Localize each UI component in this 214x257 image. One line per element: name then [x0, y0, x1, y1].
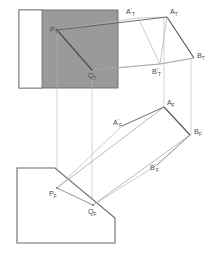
front-view-group [17, 107, 190, 243]
top-view-group [19, 10, 194, 88]
vertex-Q-front [92, 204, 94, 206]
front-view-edge-Aprime-P [57, 126, 122, 188]
front-view-edge-Bprime-Q [93, 165, 157, 205]
label-A-F: AF [167, 98, 175, 108]
label-A-prime-T: A'T [126, 7, 135, 17]
top-view-edge-A-B [167, 17, 194, 58]
top-view-edge-Aprime-Bprime [138, 18, 160, 64]
top-view-white-strip [19, 10, 42, 88]
label-B-T: BT [197, 51, 205, 61]
label-B-prime-T: B'T [152, 67, 161, 77]
technical-drawing-canvas: PT QT A'T AT B'T BT PF QF [0, 0, 214, 257]
vertex-P-front [56, 187, 58, 189]
top-view-edge-A-Bprime [160, 17, 167, 64]
front-view-edge-A-B [164, 107, 190, 135]
label-B-F: BF [194, 127, 202, 137]
label-A-T: AT [170, 7, 178, 17]
front-view-edge-B-Bprime [157, 135, 190, 165]
label-A-prime-F: A'F [113, 118, 122, 128]
projection-figure: PT QT A'T AT B'T BT PF QF [0, 0, 214, 257]
